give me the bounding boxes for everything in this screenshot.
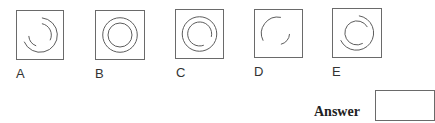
arcs-icon (333, 9, 381, 57)
answer-label: Answer (314, 104, 360, 120)
option-a-figure[interactable] (16, 10, 64, 60)
two-arcs-icon (255, 10, 302, 57)
arcs-icon (17, 11, 63, 59)
option-e-figure[interactable] (332, 8, 382, 58)
option-d-figure[interactable] (254, 9, 303, 58)
option-c-figure[interactable] (175, 9, 224, 59)
answer-input-box[interactable] (375, 90, 435, 121)
circle-with-arc-icon (176, 10, 223, 58)
concentric-circles-icon (96, 11, 144, 59)
option-a-label: A (16, 66, 25, 81)
option-b-figure[interactable] (95, 10, 145, 60)
option-b-label: B (95, 66, 104, 81)
option-c-label: C (176, 65, 185, 80)
option-e-label: E (332, 64, 341, 79)
option-d-label: D (254, 64, 263, 79)
